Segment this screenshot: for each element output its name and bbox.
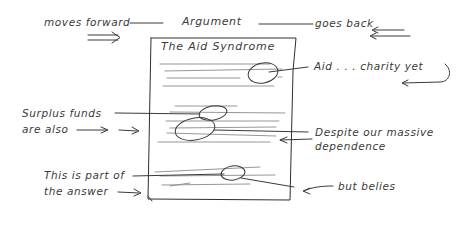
moves-forward-label: moves forward <box>44 15 130 29</box>
aid-charity-label: Aid . . . charity yet <box>314 59 423 73</box>
argument-label: Argument <box>182 15 242 29</box>
despite-label-line2: dependence <box>315 139 386 153</box>
sketch-diagram: moves forward Argument goes back The Aid… <box>0 0 470 228</box>
back-arrow-icon <box>370 27 410 39</box>
despite-arrow-icon <box>280 137 312 143</box>
goes-back-label: goes back <box>315 16 374 30</box>
surplus-arrow-2-icon <box>119 127 139 134</box>
surplus-arrow-1-icon <box>77 127 108 133</box>
answer-label-line2: the answer <box>44 184 109 198</box>
oval-belies <box>220 164 246 181</box>
belies-arrow-icon <box>303 186 333 194</box>
despite-label-line1: Despite our massive <box>315 125 434 139</box>
oval-despite <box>173 115 216 144</box>
answer-label-line1: This is part of <box>44 168 125 182</box>
document-title: The Aid Syndrome <box>161 40 275 54</box>
page-corner-mark <box>148 196 152 201</box>
forward-arrow-icon <box>88 32 120 43</box>
surplus-label-line2: are also <box>22 122 69 136</box>
surplus-callout-line <box>115 113 200 114</box>
despite-callout-line <box>214 130 308 132</box>
oval-surplus <box>198 104 228 123</box>
answer-arrow-icon <box>118 189 141 196</box>
surplus-label-line1: Surplus funds <box>22 106 102 120</box>
belies-callout-line <box>241 178 294 187</box>
but-belies-label: but belies <box>338 179 396 193</box>
